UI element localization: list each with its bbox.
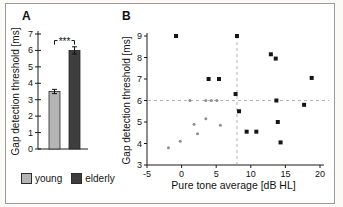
b-y-tick-label: 8: [137, 53, 142, 63]
bar-chart-panel-a: 01234567***Gap detection threshold [ms]: [9, 9, 121, 169]
a-y-tick-label: 3: [28, 95, 33, 105]
scatter-point-young: [204, 99, 207, 102]
a-y-tick-label: 4: [28, 78, 33, 88]
significance-label: ***: [59, 36, 71, 47]
b-x-tick-label: 10: [246, 169, 256, 179]
b-x-axis-title: Pure tone average [dB HL]: [171, 179, 295, 191]
b-y-tick-label: 5: [137, 117, 142, 127]
b-y-tick-label: 4: [137, 139, 142, 149]
bar-elderly: [69, 50, 80, 149]
scatter-point-elderly: [174, 34, 178, 38]
scatter-point-elderly: [269, 52, 273, 56]
scatter-point-young: [219, 124, 222, 127]
scatter-point-young: [215, 99, 218, 102]
scatter-point-young: [204, 117, 207, 120]
b-y-axis-title: Gap detection threshold [ms]: [121, 36, 132, 164]
a-y-tick-label: 7: [28, 29, 33, 39]
scatter-point-elderly: [234, 92, 238, 96]
a-y-tick-label: 0: [28, 144, 33, 154]
a-y-tick-label: 1: [28, 128, 33, 138]
scatter-point-elderly: [274, 57, 278, 61]
scatter-point-elderly: [235, 34, 239, 38]
a-y-tick-label: 5: [28, 62, 33, 72]
a-y-tick-label: 2: [28, 111, 33, 121]
scatter-point-elderly: [245, 130, 249, 134]
legend-item-elderly: elderly: [71, 173, 114, 184]
scatter-point-elderly: [254, 130, 258, 134]
b-x-tick-label: 15: [280, 169, 290, 179]
b-y-tick-label: 6: [137, 96, 142, 106]
scatter-point-elderly: [276, 120, 280, 124]
b-x-tick-label: 0: [179, 169, 184, 179]
scatter-point-young: [188, 99, 191, 102]
b-y-tick-label: 3: [137, 160, 142, 170]
legend-label-elderly: elderly: [85, 173, 114, 184]
a-y-axis-title: Gap detection threshold [ms]: [10, 27, 21, 155]
b-y-tick-label: 7: [137, 74, 142, 84]
scatter-point-young: [179, 140, 182, 143]
b-x-tick-label: 20: [315, 169, 325, 179]
legend-swatch-elderly: [71, 173, 82, 184]
a-y-tick-label: 6: [28, 45, 33, 55]
legend-item-young: young: [21, 173, 62, 184]
scatter-point-elderly: [274, 99, 278, 103]
b-x-tick-label: -5: [143, 169, 151, 179]
scatter-point-elderly: [217, 77, 221, 81]
scatter-point-elderly: [279, 140, 283, 144]
legend: young elderly: [21, 173, 115, 184]
scatter-point-elderly: [310, 76, 314, 80]
scatter-point-elderly: [207, 77, 211, 81]
b-y-tick-label: 9: [137, 31, 142, 41]
scatter-point-young: [196, 132, 199, 135]
scatter-point-elderly: [237, 109, 241, 113]
legend-swatch-young: [21, 173, 32, 184]
scatter-point-young: [210, 99, 213, 102]
scatter-point-young: [193, 123, 196, 126]
scatter-point-elderly: [302, 103, 306, 107]
scatter-point-young: [167, 146, 170, 149]
legend-label-young: young: [35, 173, 62, 184]
figure-frame: A B 01234567***Gap detection threshold […: [5, 3, 335, 204]
bar-young: [49, 92, 60, 150]
scatter-chart-panel-b: -5051015203456789Pure tone average [dB H…: [119, 9, 335, 201]
b-x-tick-label: 5: [214, 169, 219, 179]
